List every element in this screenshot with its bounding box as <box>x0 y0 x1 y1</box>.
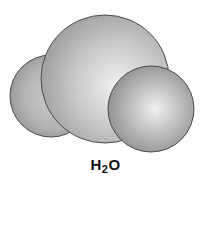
formula-element-h: H <box>90 156 101 173</box>
molecule-formula-label: H2O <box>0 156 211 175</box>
hydrogen-atom-right <box>108 66 194 152</box>
formula-element-o: O <box>108 156 120 173</box>
